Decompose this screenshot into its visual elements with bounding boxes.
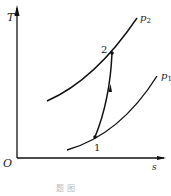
point-1-label: 1	[94, 142, 100, 153]
isobar-p2	[47, 18, 137, 101]
s-axis-label: s	[152, 162, 157, 172]
p1-label: p1	[161, 70, 171, 83]
ts-diagram: T O s p2 p1 2 1 题 图	[0, 0, 171, 196]
s-axis-arrow-icon	[157, 156, 166, 160]
figure-caption: 题 图	[56, 184, 75, 193]
isobar-p1	[67, 76, 157, 150]
origin-label: O	[3, 157, 12, 170]
t-axis-arrow-icon	[15, 5, 20, 16]
point-1	[93, 135, 97, 139]
p2-label: p2	[140, 12, 151, 25]
point-2-label: 2	[101, 44, 107, 55]
point-2	[110, 51, 114, 55]
t-axis-label: T	[7, 11, 16, 24]
